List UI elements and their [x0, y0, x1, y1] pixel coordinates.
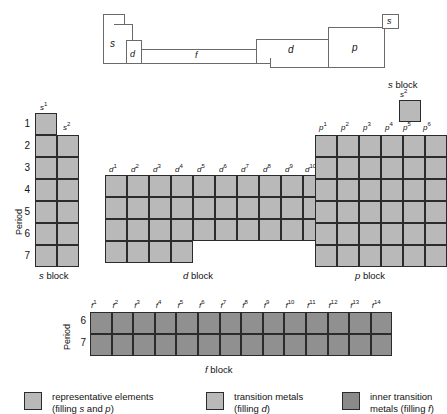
f-block-cell	[306, 312, 328, 334]
p-block-cell	[403, 201, 425, 223]
schematic-label-f: f	[195, 50, 198, 60]
schematic-label-d-right: d	[288, 44, 294, 55]
helium-cell	[399, 100, 421, 122]
d-block-cell	[149, 241, 171, 263]
p-block-column-label-p6: p6	[423, 124, 431, 132]
f-block-column-label-f9: f9	[264, 302, 270, 310]
schematic-label-s-helium: s	[387, 16, 392, 26]
d-block-column-label-d3: d3	[153, 166, 161, 174]
f-block-column-label-f2: f2	[113, 302, 119, 310]
s-block-cell	[57, 135, 79, 157]
p-block-cell	[425, 223, 447, 245]
f-block-column-label-f4: f4	[156, 302, 162, 310]
legend-swatch-representative	[24, 392, 42, 410]
d-block-cell	[281, 197, 303, 219]
d-block-column-label-d2: d2	[131, 166, 139, 174]
d-block-column-label-d7: d7	[241, 166, 249, 174]
s-block-cell	[35, 245, 57, 267]
d-block-cell	[237, 175, 259, 197]
s-block-cell	[35, 201, 57, 223]
f-block-column-label-f5: f5	[177, 302, 183, 310]
p-block-cell	[425, 179, 447, 201]
f-block-column-label-f1: f1	[91, 302, 97, 310]
p-block-cell	[381, 135, 403, 157]
f-block-cell	[349, 312, 371, 334]
d-block-column-label-d5: d5	[197, 166, 205, 174]
f-block-period-number-7: 7	[74, 338, 86, 348]
p-block-cell	[337, 245, 359, 267]
f-block-cell	[371, 334, 393, 356]
f-block-column-label-f12: f12	[329, 302, 338, 310]
p-block-cell	[403, 157, 425, 179]
p-block-cell	[315, 245, 337, 267]
p-block-cell	[337, 223, 359, 245]
d-block-cell	[259, 197, 281, 219]
s-block-period-number-6: 6	[18, 229, 30, 239]
f-block-column-label-f6: f6	[199, 302, 205, 310]
d-block-column-label-d8: d8	[263, 166, 271, 174]
schematic-label-d-left: d	[130, 49, 135, 59]
schematic-shape-d-right-foot	[270, 58, 329, 68]
d-block-cell	[105, 219, 127, 241]
f-block-cell	[133, 312, 155, 334]
f-block-cell	[306, 334, 328, 356]
d-block-column-label-d9: d9	[285, 166, 293, 174]
d-block-cell	[127, 197, 149, 219]
p-block-cell	[315, 179, 337, 201]
p-block-cell	[359, 201, 381, 223]
schematic-label-s-left: s	[110, 38, 115, 49]
f-block-cell	[112, 334, 134, 356]
p-block-caption: p block	[355, 270, 385, 281]
p-block-cell	[403, 245, 425, 267]
f-block-cell	[155, 312, 177, 334]
p-block-column-label-p2: p2	[341, 124, 349, 132]
p-block-cell	[337, 135, 359, 157]
f-block-cell	[90, 312, 112, 334]
f-block-cell	[198, 334, 220, 356]
legend-swatch-transition	[206, 392, 224, 410]
p-block-cell	[381, 223, 403, 245]
f-block-column-label-f11: f11	[307, 302, 315, 310]
p-block-cell	[381, 201, 403, 223]
schematic-label-p: p	[352, 42, 358, 53]
p-block-cell	[359, 245, 381, 267]
d-block-cell	[105, 175, 127, 197]
s-block-cell	[35, 113, 57, 135]
legend-label-transition-line1: transition metals	[234, 391, 303, 403]
s-block-period-number-4: 4	[18, 185, 30, 195]
s-block-cell	[57, 157, 79, 179]
s-block-period-number-2: 2	[18, 141, 30, 151]
legend-label-inner-transition-line2: metals (filling f)	[370, 403, 434, 414]
p-block-column-label-p1: p1	[319, 124, 327, 132]
f-block-cell	[328, 334, 350, 356]
d-block-column-label-d6: d6	[219, 166, 227, 174]
legend-label-transition-line2: (filling d)	[234, 403, 270, 414]
d-block-cell	[193, 197, 215, 219]
f-block-caption: f block	[205, 364, 232, 375]
f-block-cell	[112, 312, 134, 334]
d-block-cell	[149, 197, 171, 219]
f-block-period-axis-label: Period	[62, 324, 72, 350]
d-block-cell	[237, 197, 259, 219]
s-block-cell	[35, 179, 57, 201]
d-block-column-label-d4: d4	[175, 166, 183, 174]
d-block-cell	[193, 175, 215, 197]
f-block-cell	[176, 312, 198, 334]
p-block-cell	[425, 201, 447, 223]
p-block-cell	[315, 157, 337, 179]
d-block-cell	[127, 241, 149, 263]
f-block-column-label-f10: f10	[285, 302, 294, 310]
s-block-cell	[35, 223, 57, 245]
s-block-cell	[57, 223, 79, 245]
p-block-cell	[359, 135, 381, 157]
f-block-cell	[349, 334, 371, 356]
d-block-cell	[215, 197, 237, 219]
p-block-cell	[315, 223, 337, 245]
d-block-cell	[171, 241, 193, 263]
s-block-period-number-7: 7	[18, 251, 30, 261]
s-block-cell	[35, 135, 57, 157]
d-block-cell	[105, 197, 127, 219]
f-block-cell	[284, 334, 306, 356]
d-block-cell	[171, 175, 193, 197]
